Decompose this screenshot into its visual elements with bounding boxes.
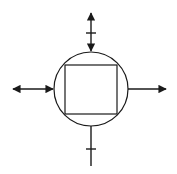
bottom-connector bbox=[86, 126, 96, 166]
block-diagram bbox=[0, 0, 177, 174]
inner-square-block bbox=[65, 65, 117, 114]
diagram-canvas bbox=[0, 0, 177, 174]
top-connector bbox=[86, 13, 96, 51]
